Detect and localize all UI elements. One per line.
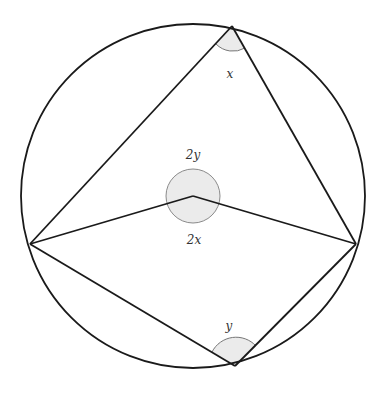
chord-top-right: [232, 26, 356, 244]
diagram-canvas: [0, 0, 383, 393]
radius-right: [193, 196, 356, 244]
label-angle-y: y: [226, 319, 233, 333]
label-angle-x: x: [227, 67, 234, 81]
label-angle-2x: 2x: [187, 233, 201, 247]
radius-left: [30, 196, 193, 244]
label-angle-2y: 2y: [186, 148, 200, 162]
chord-bottom-right: [235, 244, 356, 366]
circle-diagram: x 2y 2x y: [0, 0, 383, 393]
